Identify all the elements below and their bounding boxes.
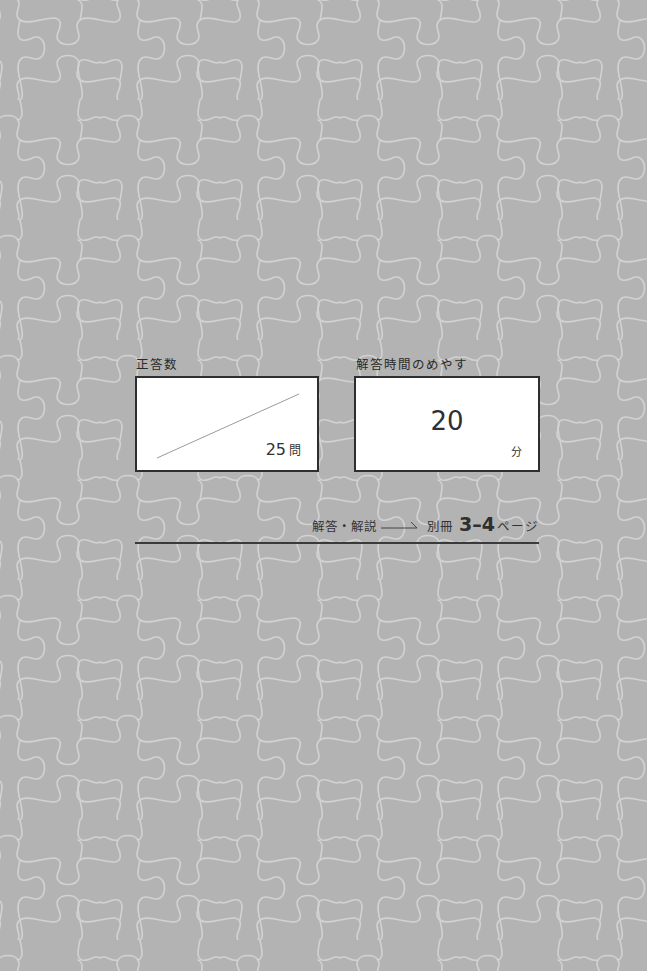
score-box[interactable]: 25問 bbox=[135, 376, 319, 472]
total-questions: 25 bbox=[266, 440, 286, 459]
time-box: 20 分 bbox=[354, 376, 540, 472]
answer-reference: 解答・解説 別冊 3–4 ページ bbox=[312, 513, 539, 535]
time-value: 20 bbox=[356, 406, 538, 436]
time-label: 解答時間のめやす bbox=[356, 354, 468, 373]
arrow-right-icon bbox=[381, 519, 421, 531]
volume-label: 別冊 bbox=[427, 516, 453, 535]
page-range: 3–4 bbox=[459, 513, 495, 535]
question-unit: 問 bbox=[289, 444, 301, 458]
time-unit: 分 bbox=[511, 443, 522, 459]
puzzle-background-pattern bbox=[0, 0, 647, 971]
answer-reference-text: 解答・解説 bbox=[312, 516, 377, 535]
horizontal-rule bbox=[135, 542, 539, 544]
page-suffix: ページ bbox=[497, 516, 539, 535]
score-total: 25問 bbox=[266, 440, 301, 459]
score-label: 正答数 bbox=[136, 354, 178, 373]
